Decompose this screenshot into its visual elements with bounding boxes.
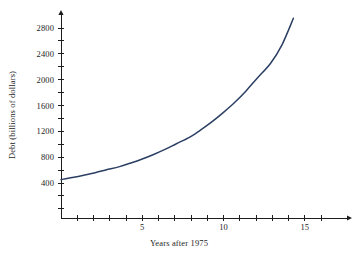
x-tick-label: 10 xyxy=(219,222,228,232)
y-axis-arrowhead xyxy=(58,10,63,15)
debt-curve xyxy=(61,18,293,179)
data-series-group xyxy=(61,18,293,179)
y-axis-title: Debt (billions of dollars) xyxy=(7,35,17,195)
y-tick-label: 400 xyxy=(14,178,54,188)
y-tick-label: 1600 xyxy=(14,101,54,111)
axes-group xyxy=(58,10,352,221)
y-tick-label: 1200 xyxy=(14,126,54,136)
x-tick-label: 5 xyxy=(140,222,144,232)
chart-figure: 28002400200016001200800400 51015 Years a… xyxy=(0,0,358,260)
x-tick-label: 15 xyxy=(300,222,309,232)
y-tick-label: 800 xyxy=(14,152,54,162)
y-tick-label: 2400 xyxy=(14,49,54,59)
axis-ticks xyxy=(58,28,321,221)
y-tick-label: 2000 xyxy=(14,75,54,85)
x-axis-arrowhead xyxy=(347,215,352,220)
y-tick-label: 2800 xyxy=(14,23,54,33)
x-axis-title: Years after 1975 xyxy=(0,238,358,248)
